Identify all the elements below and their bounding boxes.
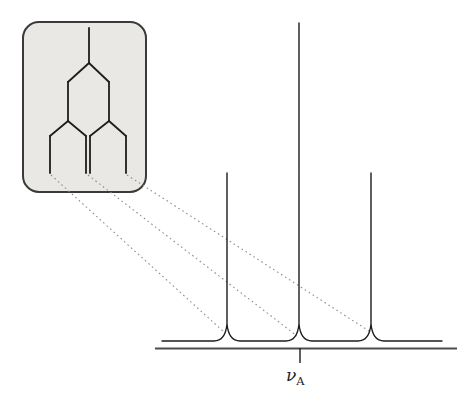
figure-svg <box>0 0 473 408</box>
connector-lines <box>51 175 369 336</box>
frequency-label: νA <box>286 367 326 388</box>
nu-symbol: ν <box>286 365 296 385</box>
nu-subscript: A <box>296 374 304 388</box>
connector-dotted-line <box>51 175 224 332</box>
connector-dotted-line <box>127 175 369 331</box>
connector-dotted-line <box>88 175 297 336</box>
spectrum-curve <box>162 23 442 341</box>
nmr-triplet-figure: νA <box>0 0 473 408</box>
inset-box <box>23 22 146 192</box>
